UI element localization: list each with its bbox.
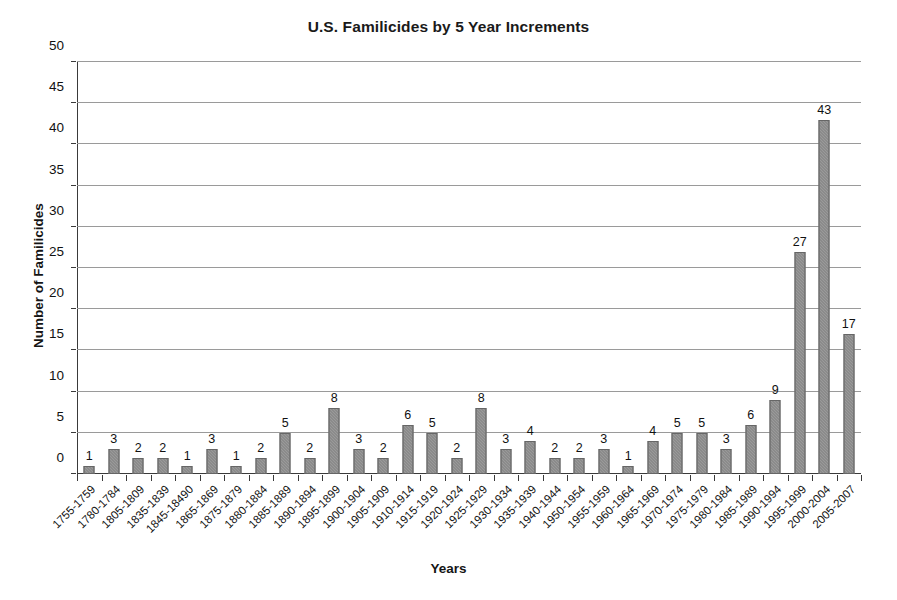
- y-tick-label: 20: [24, 285, 64, 300]
- bar-slot: 4: [518, 62, 543, 474]
- bar: [696, 433, 707, 474]
- x-tick-mark: [77, 475, 78, 481]
- bar: [378, 458, 389, 474]
- bar: [108, 449, 119, 474]
- x-tick-mark: [249, 475, 250, 481]
- bar: [280, 433, 291, 474]
- bar: [843, 334, 854, 474]
- x-tick-mark: [812, 475, 813, 481]
- bar-slot: 2: [126, 62, 151, 474]
- x-tick-mark: [224, 475, 225, 481]
- bar-slot: 2: [567, 62, 592, 474]
- bar: [500, 449, 511, 474]
- y-tick-mark: [71, 349, 76, 350]
- y-axis-tick-labels: 05101520253035404550: [24, 62, 70, 474]
- bar: [206, 449, 217, 474]
- bar: [647, 441, 658, 474]
- bar-value-label: 1: [86, 449, 93, 463]
- x-tick-mark: [763, 475, 764, 481]
- bar-slot: 2: [371, 62, 396, 474]
- bar-slot: 2: [151, 62, 176, 474]
- bar: [182, 466, 193, 474]
- bar: [549, 458, 560, 474]
- bar-value-label: 6: [747, 408, 754, 422]
- x-tick-mark: [739, 475, 740, 481]
- y-tick-label: 45: [24, 79, 64, 94]
- bar-value-label: 4: [649, 424, 656, 438]
- x-tick-mark: [788, 475, 789, 481]
- y-tick-mark: [71, 391, 76, 392]
- bar: [157, 458, 168, 474]
- chart-figure: U.S. Familicides by 5 Year Increments Nu…: [0, 0, 897, 600]
- bar-slot: 1: [616, 62, 641, 474]
- bar-slot: 1: [77, 62, 102, 474]
- bar-slot: 2: [445, 62, 470, 474]
- x-tick-mark: [273, 475, 274, 481]
- y-tick-mark: [71, 102, 76, 103]
- bar-slot: 1: [175, 62, 200, 474]
- x-tick-mark: [396, 475, 397, 481]
- x-axis-tick-marks: [77, 475, 861, 481]
- bar-value-label: 3: [502, 432, 509, 446]
- bar-value-label: 2: [453, 441, 460, 455]
- bar-slot: 6: [739, 62, 764, 474]
- bar-series: 13221312528326528342231455369274317: [77, 62, 861, 474]
- y-tick-mark: [71, 143, 76, 144]
- bar-slot: 6: [396, 62, 421, 474]
- x-tick-mark: [641, 475, 642, 481]
- x-tick-mark: [347, 475, 348, 481]
- x-tick-mark: [298, 475, 299, 481]
- bar: [574, 458, 585, 474]
- chart-title: U.S. Familicides by 5 Year Increments: [0, 18, 897, 36]
- bar-value-label: 1: [184, 449, 191, 463]
- bar: [329, 408, 340, 474]
- y-tick-label: 25: [24, 244, 64, 259]
- bar: [672, 433, 683, 474]
- y-tick-label: 0: [24, 450, 64, 465]
- bar-slot: 8: [322, 62, 347, 474]
- bar: [304, 458, 315, 474]
- y-tick-mark: [71, 473, 76, 474]
- bar-value-label: 2: [257, 441, 264, 455]
- bar: [721, 449, 732, 474]
- x-axis-tick-labels: 1755-17591780-17841805-18091835-18391845…: [77, 483, 861, 557]
- x-tick-mark: [126, 475, 127, 481]
- bar-slot: 2: [298, 62, 323, 474]
- bar: [623, 466, 634, 474]
- x-tick-mark: [837, 475, 838, 481]
- bar-value-label: 6: [404, 408, 411, 422]
- y-tick-label: 15: [24, 326, 64, 341]
- x-tick-mark: [371, 475, 372, 481]
- x-tick-mark: [151, 475, 152, 481]
- y-tick-label: 40: [24, 120, 64, 135]
- bar-value-label: 4: [527, 424, 534, 438]
- x-tick-mark: [714, 475, 715, 481]
- x-axis-title: Years: [0, 561, 897, 576]
- bar-value-label: 8: [331, 391, 338, 405]
- bar-slot: 43: [812, 62, 837, 474]
- x-tick-mark: [690, 475, 691, 481]
- bar: [794, 252, 805, 474]
- bar-value-label: 5: [282, 416, 289, 430]
- bar: [353, 449, 364, 474]
- y-tick-mark: [71, 185, 76, 186]
- bar-value-label: 5: [698, 416, 705, 430]
- bar-value-label: 2: [380, 441, 387, 455]
- y-tick-label: 5: [24, 409, 64, 424]
- x-tick-mark: [469, 475, 470, 481]
- bar: [231, 466, 242, 474]
- y-tick-label: 30: [24, 203, 64, 218]
- x-tick-mark: [445, 475, 446, 481]
- bar-slot: 3: [714, 62, 739, 474]
- bar: [770, 400, 781, 474]
- bar: [745, 425, 756, 474]
- bar-value-label: 2: [159, 441, 166, 455]
- y-tick-label: 35: [24, 162, 64, 177]
- bar-value-label: 17: [842, 317, 856, 331]
- bar-value-label: 3: [110, 432, 117, 446]
- bar-slot: 1: [224, 62, 249, 474]
- x-tick-mark: [543, 475, 544, 481]
- bar-slot: 3: [347, 62, 372, 474]
- plot-area: 13221312528326528342231455369274317: [77, 62, 861, 474]
- x-tick-mark: [592, 475, 593, 481]
